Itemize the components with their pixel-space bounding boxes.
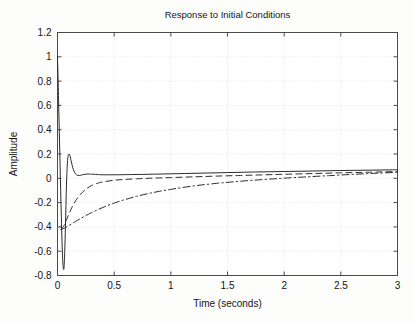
y-tick-label: 0.2 — [38, 149, 52, 160]
figure-container: 00.511.522.53 1.210.80.60.40.20-0.2-0.4-… — [0, 0, 414, 324]
x-tick-label: 2.5 — [334, 280, 348, 291]
x-tick-label: 2 — [281, 280, 287, 291]
x-tick-label: 1 — [168, 280, 174, 291]
y-tick-label: -0.2 — [34, 197, 52, 208]
y-tick-label: 0.6 — [38, 100, 52, 111]
y-tick-label: 0.4 — [38, 124, 52, 135]
y-axis-label: Amplitude — [8, 131, 19, 176]
y-tick-label: -0.8 — [34, 270, 52, 281]
y-tick-label: -0.4 — [34, 221, 52, 232]
chart-title: Response to Initial Conditions — [165, 9, 291, 20]
x-tick-label: 3 — [395, 280, 401, 291]
y-tick-label: 1 — [46, 51, 52, 62]
x-tick-label: 0 — [55, 280, 61, 291]
y-tick-label: 1.2 — [38, 27, 52, 38]
chart-canvas: 00.511.522.53 1.210.80.60.40.20-0.2-0.4-… — [0, 0, 414, 324]
x-axis-label: Time (seconds) — [193, 298, 262, 309]
x-tick-label: 0.5 — [107, 280, 121, 291]
y-tick-label: -0.6 — [34, 246, 52, 257]
y-tick-label: 0.8 — [38, 76, 52, 87]
y-tick-label: 0 — [46, 173, 52, 184]
x-tick-label: 1.5 — [221, 280, 235, 291]
